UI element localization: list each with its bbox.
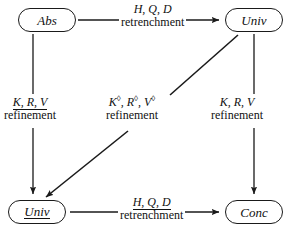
edge-label-bottom-symbols: H, Q, D [120, 196, 183, 209]
edge-label-bottom-word: retrenchment [120, 209, 183, 222]
edge-label-right: K, R, V refinement [209, 96, 265, 123]
node-conc[interactable]: Conc [225, 200, 283, 224]
edge-label-diagonal-word: refinement [106, 109, 158, 122]
diamond-superscript-icon: ◊ [151, 94, 155, 103]
node-conc-label: Conc [240, 206, 267, 219]
edge-label-left-symbols: K, R, V [4, 96, 56, 109]
node-univ-bottom-left[interactable]: Univ [8, 200, 66, 224]
edge-label-top-word: retrenchment [121, 16, 184, 29]
diamond-superscript-icon: ◊ [134, 94, 138, 103]
node-univ-bottom-left-label: Univ [24, 205, 49, 219]
edge-line-diagonal-upper [170, 35, 238, 95]
node-univ-top-right-label: Univ [241, 14, 266, 27]
edge-line-diagonal-lower [46, 131, 128, 197]
edge-label-right-word: refinement [211, 109, 263, 122]
edge-label-bottom: H, Q, D retrenchment [118, 196, 185, 223]
edge-label-diagonal: K◊, R◊, V◊ refinement [104, 96, 160, 123]
diamond-superscript-icon: ◊ [117, 94, 121, 103]
node-abs[interactable]: Abs [18, 8, 76, 32]
edge-label-left-word: refinement [4, 109, 56, 122]
edge-label-diagonal-symbols: K◊, R◊, V◊ [106, 96, 158, 109]
edge-label-top: H, Q, D retrenchment [119, 3, 186, 30]
node-univ-top-right[interactable]: Univ [225, 8, 283, 32]
node-abs-label: Abs [37, 14, 57, 27]
edge-label-top-symbols: H, Q, D [121, 3, 184, 16]
edge-label-right-symbols: K, R, V [211, 96, 263, 109]
diagram-canvas: Abs Univ Univ Conc H, Q, D retrenchment … [0, 0, 291, 235]
edge-label-left: K, R, V refinement [2, 96, 58, 123]
